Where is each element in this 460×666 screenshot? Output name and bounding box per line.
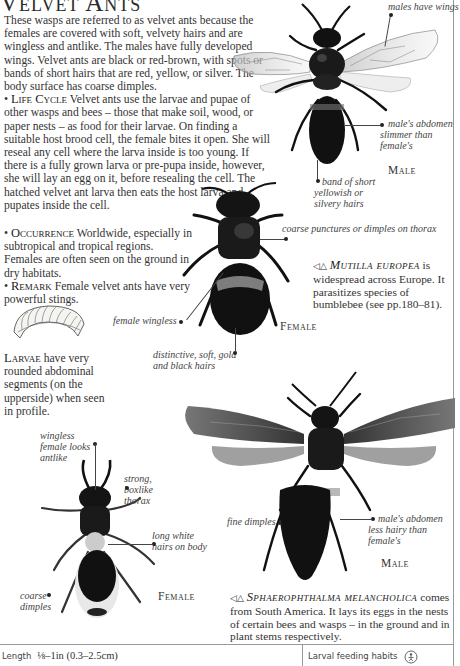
length-label: Length xyxy=(2,651,31,661)
parasite-icon xyxy=(404,650,418,664)
caption-text: males have wings xyxy=(388,1,459,12)
caption-text: fine dimples xyxy=(227,516,276,527)
footer-divider xyxy=(302,644,303,666)
length-value: ⅛–1in (0.3–2.5cm) xyxy=(37,650,118,661)
leader-dot xyxy=(47,593,51,597)
leader-line xyxy=(345,125,381,126)
caption-text: band of short yellowish or silvery hairs xyxy=(314,176,375,209)
caption-text: distinctive, soft, gold and black hairs xyxy=(153,349,236,371)
leader-line xyxy=(235,328,236,352)
caption-band-short-hairs: band of short yellowish or silvery hairs xyxy=(314,176,384,209)
caption-text: male's abdomen less hairy than female's xyxy=(368,513,443,546)
caption-strong-boxlike-thorax: strong, boxlike thorax xyxy=(124,473,180,506)
occurrence-block: • Occurrence Worldwide, especially in su… xyxy=(4,227,192,306)
footer-length: Length⅛–1in (0.3–2.5cm) xyxy=(2,645,118,666)
caption-text: coarse dimples xyxy=(20,590,50,612)
info-footer: Length⅛–1in (0.3–2.5cm) Larval feeding h… xyxy=(0,644,454,666)
leader-dot xyxy=(125,486,129,490)
caption-gold-black-hairs: distinctive, soft, gold and black hairs xyxy=(153,349,243,371)
species-note-mutilla: ◁△ Mutilla europea is widespread across … xyxy=(313,259,453,311)
section-heading: Remark xyxy=(11,279,52,293)
leader-dot xyxy=(284,237,288,241)
species-note-sphaero: ◁△ Sphaerophthalma melancholica comes fr… xyxy=(230,591,452,643)
label-mutilla-female: Female xyxy=(280,320,317,332)
species-name: Mutilla europea xyxy=(330,258,420,272)
caption-wingless-female-antlike: wingless female looks antlike xyxy=(40,430,100,463)
leader-dot xyxy=(179,320,183,324)
caption-text: wingless female looks antlike xyxy=(40,430,100,463)
footer-habits: Larval feeding habits xyxy=(308,645,418,666)
species-symbols: ◁△ xyxy=(230,593,244,603)
species-symbols: ◁△ xyxy=(313,261,327,271)
caption-coarse-punctures-thorax: coarse punctures or dimples on thorax xyxy=(282,223,436,234)
caption-coarse-dimples: coarse dimples xyxy=(20,590,50,612)
larva-illustration xyxy=(10,302,86,340)
caption-text: coarse punctures or dimples on thorax xyxy=(282,223,436,234)
caption-female-wingless: female wingless xyxy=(113,315,183,326)
caption-text: long white hairs on body xyxy=(152,530,216,552)
habits-label: Larval feeding habits xyxy=(308,651,398,661)
label-sphaero-male: Male xyxy=(381,557,409,569)
leader-dot xyxy=(278,521,282,525)
caption-male-abdomen-less-hairy: male's abdomen less hairy than female's xyxy=(368,513,454,546)
sphaero-male-abdomen xyxy=(260,480,350,590)
caption-fine-dimples: fine dimples xyxy=(227,516,282,527)
larvae-heading: Larvae xyxy=(4,351,41,365)
caption-male-abdomen-slimmer: male's abdomen slimmer than female's xyxy=(380,118,455,151)
species-name: Sphaerophthalma melancholica xyxy=(247,590,418,604)
caption-text: female wingless xyxy=(113,315,177,326)
label-mutilla-male: Male xyxy=(388,164,416,176)
leader-line xyxy=(95,444,96,490)
caption-males-have-wings: males have wings xyxy=(388,1,459,12)
page-right-border xyxy=(453,0,454,666)
label-sphaero-female: Female xyxy=(158,590,195,602)
section-heading: Life Cycle xyxy=(11,92,67,106)
leader-dot xyxy=(152,542,156,546)
section-heading: Occurrence xyxy=(11,226,74,240)
leader-line xyxy=(108,544,152,545)
caption-text: strong, boxlike thorax xyxy=(124,473,180,506)
larvae-caption: Larvae have very rounded abdominal segme… xyxy=(4,352,116,418)
leader-dot xyxy=(389,13,393,17)
caption-text: male's abdomen slimmer than female's xyxy=(380,118,453,151)
leader-line xyxy=(260,239,286,240)
section-occurrence: • Occurrence Worldwide, especially in su… xyxy=(4,227,192,280)
mutilla-female-illustration xyxy=(180,175,300,340)
caption-long-white-hairs: long white hairs on body xyxy=(152,530,216,552)
